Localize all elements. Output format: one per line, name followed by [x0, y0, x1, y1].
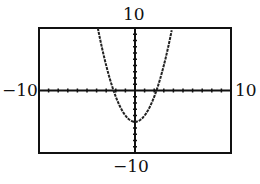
xmin-label: −10: [2, 82, 38, 99]
xmax-label: 10: [235, 82, 257, 99]
ymax-label: 10: [123, 6, 145, 23]
ymin-label: −10: [113, 158, 149, 175]
